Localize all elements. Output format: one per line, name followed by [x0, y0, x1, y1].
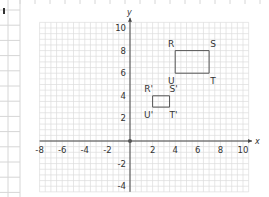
y-tick-label: 4: [121, 91, 126, 101]
x-tick-label: -8: [35, 145, 43, 155]
grid-lines: [40, 22, 249, 192]
axes: xy: [40, 8, 260, 192]
vertex-label: U': [144, 110, 153, 120]
x-tick-label: 6: [195, 145, 200, 155]
y-tick-label: -4: [118, 181, 126, 191]
x-tick-label: -2: [103, 145, 111, 155]
x-tick-label: 10: [238, 145, 249, 155]
vertex-label: T: [209, 76, 216, 86]
coordinate-diagram: xy -8-6-4-2246810-4-2246810 RSTUR'S'T'U': [0, 0, 269, 197]
y-tick-label: 2: [121, 113, 126, 123]
vertex-label: R: [168, 39, 174, 49]
origin-marker: [128, 139, 132, 143]
y-tick-label: 8: [121, 46, 126, 56]
page-marker: [3, 8, 5, 14]
y-axis-label: y: [126, 8, 132, 17]
x-tick-label: 2: [150, 145, 155, 155]
x-tick-label: -6: [58, 145, 66, 155]
vertex-label: S: [210, 39, 216, 49]
y-tick-label: 10: [115, 23, 126, 33]
vertex-label: S': [169, 84, 177, 94]
vertex-label: T': [169, 110, 178, 120]
x-tick-label: 4: [172, 145, 177, 155]
x-axis-arrow-icon: [248, 139, 252, 143]
x-tick-label: -4: [81, 145, 89, 155]
y-tick-label: -2: [118, 159, 126, 169]
y-axis-arrow-icon: [128, 18, 132, 22]
x-axis-label: x: [254, 137, 260, 146]
x-tick-label: 8: [218, 145, 223, 155]
vertex-label: R': [144, 84, 153, 94]
y-tick-label: 6: [121, 68, 126, 78]
